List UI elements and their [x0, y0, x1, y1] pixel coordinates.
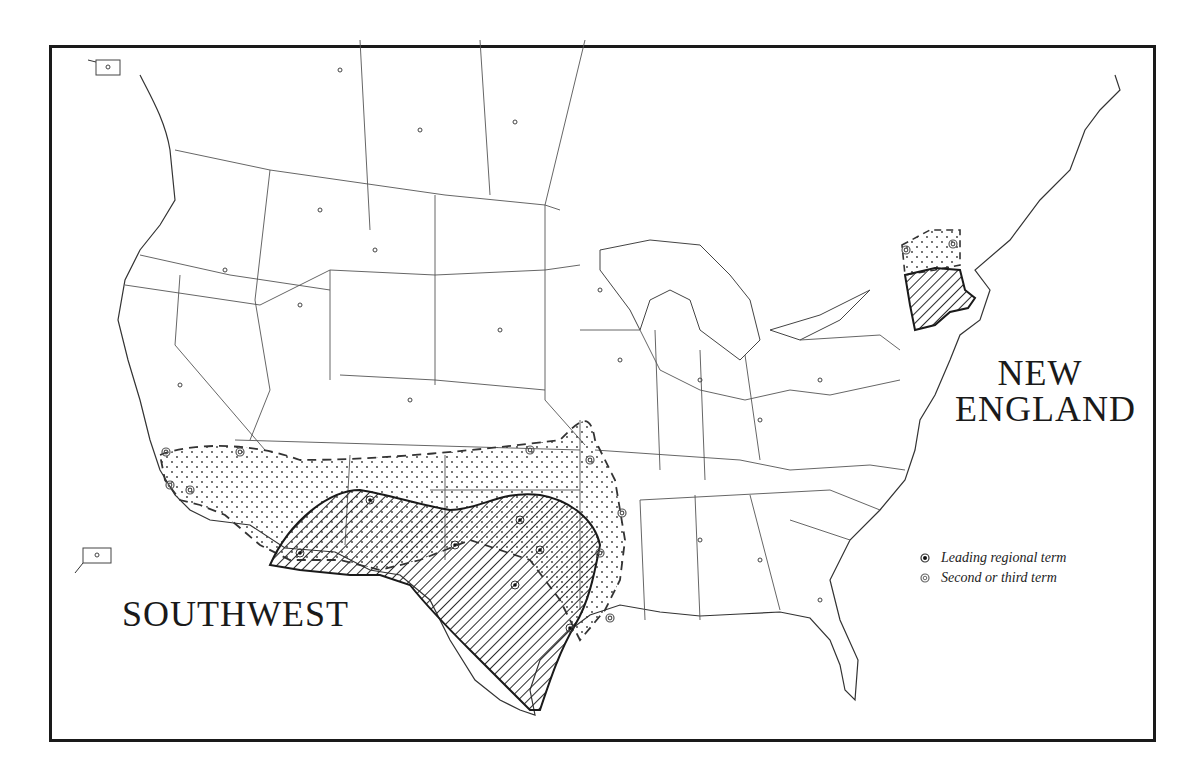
- filled-dot-circle-icon: [918, 551, 932, 565]
- map-legend: Leading regional term Second or third te…: [918, 548, 1066, 588]
- region-label-new-england-line1: NEW: [955, 355, 1125, 391]
- great-lakes: [600, 240, 760, 360]
- great-lakes-east: [770, 290, 870, 340]
- legend-label-second: Second or third term: [941, 570, 1057, 586]
- legend-item-second: Second or third term: [918, 568, 1066, 588]
- alaska-inset: [88, 60, 120, 75]
- region-label-southwest: SOUTHWEST: [122, 596, 349, 632]
- new-england-leading-region: [905, 268, 975, 330]
- hawaii-inset: [75, 548, 111, 573]
- legend-item-leading: Leading regional term: [918, 548, 1066, 568]
- region-label-new-england: NEW ENGLAND: [955, 355, 1125, 427]
- region-label-new-england-line2: ENGLAND: [955, 391, 1125, 427]
- ring-circle-icon: [918, 571, 932, 585]
- legend-label-leading: Leading regional term: [941, 550, 1066, 566]
